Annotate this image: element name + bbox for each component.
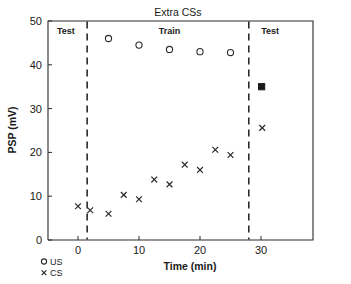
x-axis-ticks [78,236,261,240]
series-post-test-us [259,84,265,90]
chart-title: Extra CSs [154,6,201,18]
data-point-cs-4 [136,196,142,202]
data-point-cs-1 [87,207,93,213]
data-point-us-2 [166,46,172,52]
phase-annotations: TestTrainTest [57,26,279,36]
x-tick-label-10: 10 [133,244,145,256]
phase-dividers [87,22,249,240]
data-point-cs-10 [228,152,234,158]
data-point-us-4 [227,49,233,55]
x-tick-label-0: 0 [75,244,81,256]
x-tick-label-30: 30 [255,244,267,256]
y-tick-label-20: 20 [30,146,42,158]
data-point-cs-7 [182,162,188,168]
x-tick-label-20: 20 [194,244,206,256]
data-point-cs-6 [167,181,173,187]
legend-label-us: US [50,257,63,267]
data-point-cs-9 [212,147,218,153]
figure-container: Extra CSs 0 10 20 30 40 50 PSP (mV) [0,0,351,284]
y-tick-label-50: 50 [30,15,42,27]
data-point-us-0 [105,35,111,41]
data-point-cs-11 [259,125,265,131]
y-tick-label-0: 0 [36,234,42,246]
data-point-cs-2 [106,211,112,217]
y-tick-label-40: 40 [30,59,42,71]
y-axis-ticks [48,21,52,240]
x-axis-tick-labels: 0 10 20 30 [75,244,267,256]
legend-marker-us [41,259,46,264]
x-axis-title: Time (min) [164,260,217,272]
legend-label-cs: CS [50,268,63,278]
legend-marker-cs [42,270,47,275]
y-tick-label-10: 10 [30,190,42,202]
phase-label-1: Train [159,26,181,36]
data-point-us-1 [136,42,142,48]
y-axis-title: PSP (mV) [6,106,18,153]
data-point-us-3 [197,49,203,55]
data-point-cs-8 [197,167,203,173]
data-point-cs-5 [151,177,157,183]
series-cs [75,125,265,217]
data-point-cs-3 [121,192,127,198]
scatter-plot: Extra CSs 0 10 20 30 40 50 PSP (mV) [0,0,351,284]
data-points-layer [75,35,265,216]
phase-label-2: Test [261,26,279,36]
series-us [105,35,233,55]
phase-label-0: Test [57,26,75,36]
data-point-post-test-us-0 [259,84,265,90]
legend: US CS [41,257,62,278]
y-tick-label-30: 30 [30,103,42,115]
y-axis-tick-labels: 0 10 20 30 40 50 [30,15,42,246]
data-point-cs-0 [75,203,81,209]
